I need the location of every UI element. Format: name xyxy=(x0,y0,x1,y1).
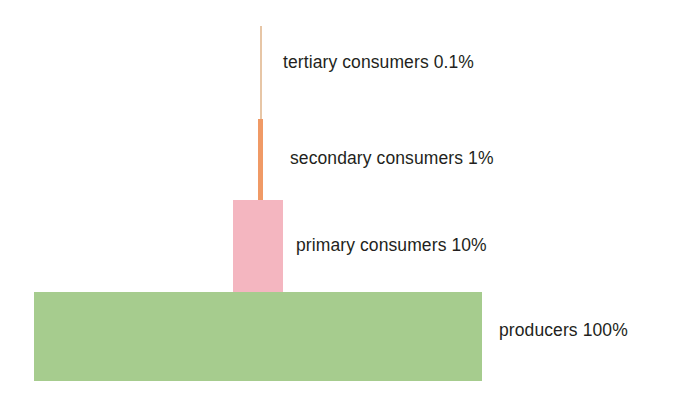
energy-pyramid-diagram: tertiary consumers 0.1% secondary consum… xyxy=(0,0,691,405)
bar-producers xyxy=(34,292,482,381)
label-producers: producers 100% xyxy=(499,322,628,340)
label-tertiary-consumers: tertiary consumers 0.1% xyxy=(283,54,474,72)
bar-primary-consumers xyxy=(233,200,283,292)
label-secondary-consumers: secondary consumers 1% xyxy=(290,150,494,168)
label-primary-consumers: primary consumers 10% xyxy=(296,237,487,255)
bar-secondary-consumers xyxy=(258,119,263,200)
bar-tertiary-consumers xyxy=(260,26,262,119)
